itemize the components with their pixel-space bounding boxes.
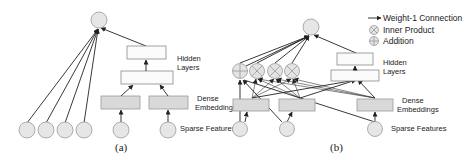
sparse-edge [287, 112, 292, 122]
dense-embeddings-label: Dense [402, 96, 424, 105]
sparse-features-label: Sparse Features [391, 124, 447, 133]
addition-icon [233, 64, 248, 79]
sparse-feature-node [233, 122, 248, 137]
wide-input-node [57, 122, 73, 138]
dense-embeddings-label: Embeddings [195, 103, 237, 112]
cross-edge [258, 79, 375, 98]
hidden-layers-label: Layers [177, 63, 200, 72]
wide-input-node [19, 122, 35, 138]
dense-embeddings-label: Embeddings [397, 105, 439, 114]
hidden-layers-label: Layers [383, 67, 406, 76]
figure: Hidden Layers Dense Embeddings Sparse Fe… [0, 0, 473, 160]
sparse-features-label: Sparse Features [180, 124, 236, 133]
caption-a: (a) [115, 141, 128, 154]
hidden-layers-label: Hidden [177, 54, 201, 63]
embed-edge [121, 85, 133, 96]
wide-edge [46, 29, 98, 123]
inner-product-icon [250, 64, 265, 79]
legend-label: Weight-1 Connection [383, 13, 462, 23]
embed-hidden-edge [300, 80, 356, 98]
output-node [91, 12, 107, 28]
wide-edge [27, 29, 98, 123]
op-edge [240, 36, 309, 63]
wide-input-node [76, 122, 92, 138]
dense-embedding [233, 99, 269, 111]
hidden-layers-label: Hidden [383, 58, 407, 67]
dense-embedding [357, 99, 393, 111]
dense-embeddings-label: Dense [197, 94, 219, 103]
dense-embedding [101, 96, 140, 109]
cross-edge [258, 79, 300, 98]
embed-hidden-edge [252, 80, 356, 98]
inner-product-icon [268, 64, 283, 79]
panel-a: Hidden Layers Dense Embeddings Sparse Fe… [19, 12, 237, 154]
legend-label: Inner Product [383, 25, 435, 35]
wide-input-node [38, 122, 54, 138]
dense-embedding [279, 99, 315, 111]
addition-icon [370, 37, 379, 46]
sparse-feature-node [280, 122, 295, 137]
inner-product-icon [370, 26, 379, 35]
sparse-edge [245, 112, 247, 122]
deep-edge [314, 35, 356, 53]
wide-edge [84, 29, 98, 123]
output-node [303, 19, 319, 35]
deep-edge [101, 28, 146, 46]
hidden-layer-top [127, 46, 166, 59]
sparse-feature-node [113, 122, 129, 138]
hidden-layer-top [337, 53, 373, 65]
hidden-layer-bottom [121, 71, 173, 84]
dense-embedding [149, 96, 188, 109]
legend: Weight-1 Connection Inner Product Additi… [368, 13, 462, 46]
hidden-layer-bottom [331, 70, 379, 81]
inner-product-icon [285, 64, 300, 79]
panel-b: Hidden Layers Dense Embeddings Sparse Fe… [233, 19, 447, 154]
sparse-feature-node [160, 122, 176, 138]
legend-label: Addition [383, 36, 414, 46]
wide-edge [65, 29, 98, 123]
caption-b: (b) [330, 141, 343, 154]
embed-edge [160, 85, 168, 96]
sparse-feature-node [368, 122, 383, 137]
